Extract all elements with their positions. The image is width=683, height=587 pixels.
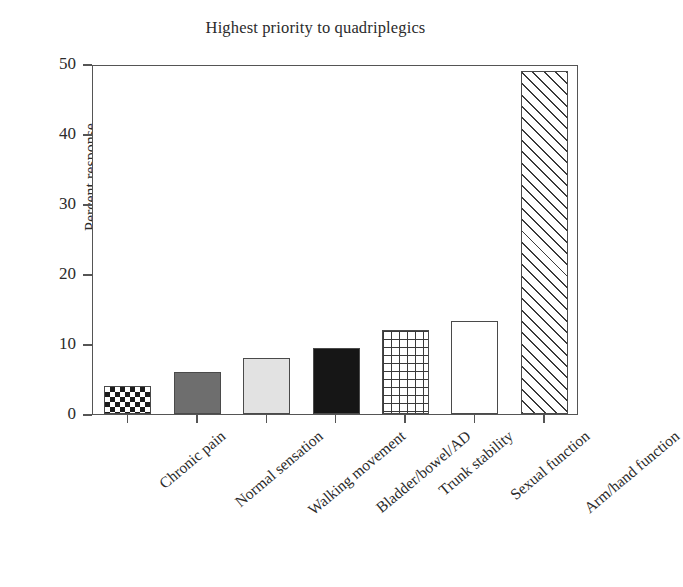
y-tick-mark <box>83 204 92 205</box>
y-tick-label: 40 <box>59 124 76 144</box>
bar <box>451 321 498 414</box>
y-tick-mark <box>83 344 92 345</box>
x-tick-mark <box>127 415 128 423</box>
y-tick-label: 30 <box>59 194 76 214</box>
y-tick-mark <box>83 274 92 275</box>
y-tick-mark <box>83 414 92 415</box>
x-tick-label: Arm/hand function <box>581 427 683 517</box>
x-tick-mark <box>543 415 544 423</box>
x-tick-label: Sexual function <box>507 427 593 504</box>
x-tick-mark <box>335 415 336 423</box>
bar <box>382 330 429 414</box>
bar <box>521 71 568 414</box>
x-tick-mark <box>266 415 267 423</box>
x-tick-mark <box>404 415 405 423</box>
y-tick-label: 0 <box>68 404 77 424</box>
y-tick-mark <box>83 134 92 135</box>
y-tick-label: 10 <box>59 334 76 354</box>
x-tick-mark <box>474 415 475 423</box>
bar <box>313 348 360 414</box>
bar <box>104 386 151 414</box>
bar <box>174 372 221 414</box>
x-tick-label: Chronic pain <box>156 427 229 493</box>
x-tick-mark <box>196 415 197 423</box>
bar <box>243 358 290 414</box>
y-tick-label: 50 <box>59 54 76 74</box>
chart-title: Highest priority to quadriplegics <box>0 18 631 38</box>
y-tick-label: 20 <box>59 264 76 284</box>
y-tick-mark <box>83 64 92 65</box>
plot-area <box>92 65 578 415</box>
